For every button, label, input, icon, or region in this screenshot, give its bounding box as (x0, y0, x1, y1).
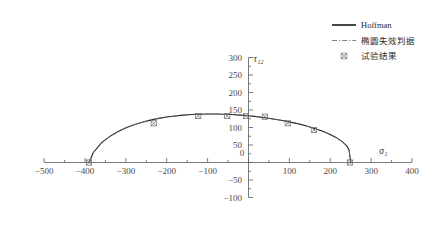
x-tick-label: −200 (157, 166, 176, 176)
y-tick-label: 100 (229, 123, 243, 133)
chart-figure: −500−400−300−200−1000100200300400−100−50… (0, 0, 447, 227)
y-tick-label: 50 (233, 140, 243, 150)
x-tick-label: 100 (283, 166, 297, 176)
x-tick-label: −400 (76, 166, 95, 176)
x-tick-label: 400 (405, 166, 419, 176)
x-tick-label: 200 (324, 166, 338, 176)
x-tick-label: 300 (364, 166, 378, 176)
y-tick-label: 150 (229, 105, 243, 115)
y-tick-label: 250 (229, 70, 243, 80)
y-tick-label: −50 (228, 175, 243, 185)
y-tick-label: 200 (229, 88, 243, 98)
x-tick-label: −500 (35, 166, 54, 176)
y-axis-title-subscript: 12 (257, 59, 263, 65)
legend-item-label: Hoffman (361, 20, 392, 30)
x-axis-title-subscript: 1 (384, 151, 387, 157)
y-ticks: −100−5050100150200250300 (223, 53, 253, 203)
y-tick-label: −100 (223, 193, 242, 203)
y-tick-label: 300 (229, 53, 243, 63)
x-tick-label: −300 (117, 166, 136, 176)
legend-item-label: 试验结果 (361, 51, 397, 61)
legend-item-label: 椭圆失效判据 (361, 36, 415, 46)
x-tick-label: −100 (198, 166, 217, 176)
